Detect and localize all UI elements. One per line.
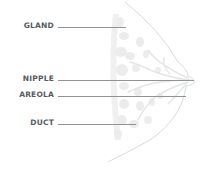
leader-line-gland (58, 27, 126, 28)
label-nipple: NIPPLE (14, 74, 54, 83)
label-areola: AREOLA (12, 90, 54, 99)
leader-line-duct (58, 124, 136, 125)
label-gland: GLAND (20, 21, 54, 30)
leader-line-areola (58, 96, 186, 97)
leader-line-nipple (58, 80, 194, 81)
label-duct: DUCT (20, 118, 54, 127)
gland-lobules (114, 17, 163, 139)
